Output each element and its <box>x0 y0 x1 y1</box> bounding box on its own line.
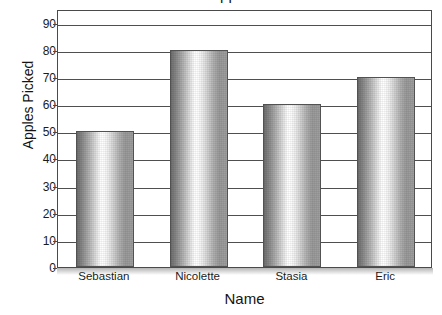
y-tick-label: 40 <box>16 152 56 166</box>
x-tick-label: Stasia <box>275 270 307 282</box>
x-tick-label: Eric <box>375 270 395 282</box>
y-tick-mark <box>53 187 57 188</box>
chart-title: Number of Apples Picked <box>0 0 442 3</box>
y-tick-label: 80 <box>16 44 56 58</box>
x-tick-label: Sebastian <box>78 270 129 282</box>
y-tick-label: 70 <box>16 71 56 85</box>
y-tick-mark <box>53 268 57 269</box>
y-tick-mark <box>53 214 57 215</box>
y-tick-label: 60 <box>16 98 56 112</box>
x-tick-label: Nicolette <box>175 270 220 282</box>
y-tick-label: 20 <box>16 207 56 221</box>
y-tick-label: 90 <box>16 17 56 31</box>
y-tick-label: 30 <box>16 180 56 194</box>
y-tick-mark <box>53 159 57 160</box>
gridline <box>58 52 431 53</box>
bar[interactable] <box>263 104 321 267</box>
plot-area <box>57 10 432 268</box>
x-axis-title: Name <box>57 290 432 307</box>
y-tick-mark <box>53 241 57 242</box>
y-tick-label: 50 <box>16 125 56 139</box>
y-tick-label: 10 <box>16 234 56 248</box>
bar[interactable] <box>170 50 228 267</box>
bar-chart-figure: Number of Apples Picked Apples Picked 01… <box>0 0 442 315</box>
y-tick-label: 0 <box>16 261 56 275</box>
bar[interactable] <box>357 77 415 267</box>
y-tick-mark <box>53 24 57 25</box>
gridline <box>58 25 431 26</box>
y-tick-mark <box>53 51 57 52</box>
y-tick-mark <box>53 132 57 133</box>
y-tick-mark <box>53 105 57 106</box>
y-tick-mark <box>53 78 57 79</box>
bar[interactable] <box>76 131 134 267</box>
